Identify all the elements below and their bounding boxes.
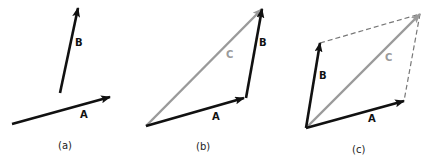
vector-c-label: C [385, 52, 392, 63]
vector-addition-diagram: B A (a) C B A (b) B C A (c) [0, 0, 430, 162]
vector-a-label: A [80, 109, 88, 120]
vector-b-arrow [60, 8, 78, 93]
vector-b-label: B [75, 37, 83, 48]
vector-c-label: C [226, 49, 233, 60]
vector-a-arrow [12, 97, 110, 124]
panel-b: C B A (b) [146, 9, 267, 152]
caption-a: (a) [58, 140, 72, 151]
panel-a: B A (a) [12, 8, 110, 151]
caption-c: (c) [352, 144, 365, 155]
vector-a-label: A [368, 113, 376, 124]
vector-b-label: B [259, 37, 267, 48]
vector-b-label: B [319, 70, 327, 81]
caption-b: (b) [196, 141, 210, 152]
panel-c: B C A (c) [306, 14, 420, 155]
vector-a-label: A [212, 111, 220, 122]
